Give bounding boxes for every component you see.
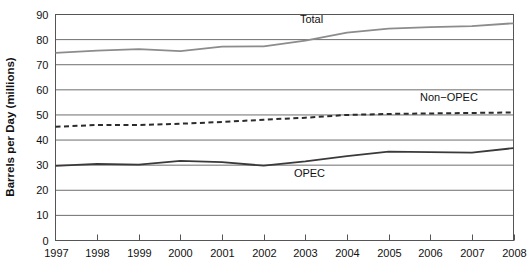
y-tick-label-90: 90 — [36, 9, 48, 21]
series-label-non-opec: Non−OPEC — [420, 91, 478, 103]
x-tick-label-2007: 2007 — [460, 247, 484, 259]
x-tick-label-2004: 2004 — [335, 247, 359, 259]
y-tick-label-80: 80 — [36, 34, 48, 46]
y-tick-label-10: 10 — [36, 209, 48, 221]
y-tick-label-60: 60 — [36, 84, 48, 96]
y-axis-title: Barrels per Day (millions) — [4, 57, 16, 196]
x-tick-label-2006: 2006 — [418, 247, 442, 259]
x-tick-label-2005: 2005 — [377, 247, 401, 259]
x-tick-label-2003: 2003 — [293, 247, 317, 259]
series-label-total: Total — [300, 13, 323, 25]
x-tick-label-2001: 2001 — [210, 247, 234, 259]
chart-background — [0, 0, 529, 274]
x-tick-label-1997: 1997 — [44, 247, 68, 259]
x-tick-label-2000: 2000 — [168, 247, 192, 259]
series-label-opec: OPEC — [294, 167, 325, 179]
x-tick-label-1998: 1998 — [85, 247, 109, 259]
y-tick-label-20: 20 — [36, 184, 48, 196]
oil-production-line-chart: 0102030405060708090 19971998199920002001… — [0, 0, 529, 274]
y-tick-label-50: 50 — [36, 109, 48, 121]
x-tick-label-2002: 2002 — [252, 247, 276, 259]
x-tick-label-1999: 1999 — [127, 247, 151, 259]
x-tick-label-2008: 2008 — [502, 247, 526, 259]
y-tick-label-30: 30 — [36, 159, 48, 171]
y-tick-label-40: 40 — [36, 134, 48, 146]
y-tick-label-0: 0 — [42, 235, 48, 247]
chart-canvas: 0102030405060708090 19971998199920002001… — [0, 0, 529, 274]
y-tick-label-70: 70 — [36, 59, 48, 71]
